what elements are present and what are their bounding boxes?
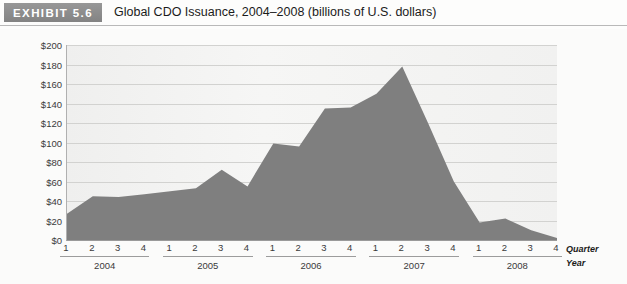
x-axis-year-label: 2007	[369, 260, 458, 271]
y-axis-tick: $180	[2, 59, 62, 70]
axis-legend-quarter: Quarter	[566, 242, 626, 256]
x-axis-quarter-tick: 1	[469, 242, 489, 253]
exhibit-header: EXHIBIT 5.6 Global CDO Issuance, 2004–20…	[0, 0, 627, 29]
chart-area: $0$20$40$60$80$100$120$140$160$180$200 Q…	[0, 29, 627, 284]
axis-legend-year: Year	[566, 256, 626, 270]
x-axis-quarter-tick: 1	[159, 242, 179, 253]
x-axis-quarter-tick: 1	[56, 242, 76, 253]
axis-legend: Quarter Year	[566, 242, 626, 270]
x-axis-year-label: 2004	[60, 260, 149, 271]
area-fill-path	[67, 66, 557, 240]
x-axis-quarter-tick: 3	[211, 242, 231, 253]
x-axis-year-group: 2007	[369, 256, 458, 280]
x-axis-year-label: 2008	[473, 260, 562, 271]
x-axis-quarter-tick: 1	[262, 242, 282, 253]
x-axis-quarter-tick: 2	[494, 242, 514, 253]
x-axis: Quarter Year 123412341234123412342004200…	[0, 242, 627, 284]
x-axis-year-group: 2004	[60, 256, 149, 280]
x-axis-year-group: 2008	[473, 256, 562, 280]
y-axis-tick: $160	[2, 79, 62, 90]
header-divider	[0, 25, 627, 26]
x-axis-quarter-tick: 3	[520, 242, 540, 253]
x-axis-quarter-tick: 4	[133, 242, 153, 253]
x-axis-quarter-tick: 3	[417, 242, 437, 253]
x-axis-quarter-tick: 2	[391, 242, 411, 253]
x-axis-quarter-tick: 2	[288, 242, 308, 253]
x-axis-quarter-tick: 4	[546, 242, 566, 253]
year-group-rule	[473, 256, 562, 257]
year-group-rule	[266, 256, 355, 257]
x-axis-year-group: 2005	[163, 256, 252, 280]
x-axis-quarter-tick: 4	[340, 242, 360, 253]
y-axis-tick: $120	[2, 118, 62, 129]
x-axis-year-label: 2006	[266, 260, 355, 271]
x-axis-year-label: 2005	[163, 260, 252, 271]
year-group-rule	[369, 256, 458, 257]
year-group-rule	[163, 256, 252, 257]
x-axis-year-group: 2006	[266, 256, 355, 280]
y-axis-tick: $20	[2, 215, 62, 226]
x-axis-quarter-tick: 4	[443, 242, 463, 253]
exhibit-title: Global CDO Issuance, 2004–2008 (billions…	[114, 3, 436, 22]
x-axis-quarter-tick: 2	[82, 242, 102, 253]
x-axis-quarter-tick: 4	[237, 242, 257, 253]
x-axis-quarter-tick: 2	[185, 242, 205, 253]
x-axis-quarter-tick: 1	[365, 242, 385, 253]
y-axis-tick: $100	[2, 137, 62, 148]
y-axis-tick: $140	[2, 98, 62, 109]
x-axis-quarter-tick: 3	[314, 242, 334, 253]
plot-area	[66, 45, 557, 241]
y-axis-tick: $80	[2, 157, 62, 168]
y-axis-tick: $60	[2, 176, 62, 187]
x-axis-quarter-tick: 3	[108, 242, 128, 253]
y-axis-tick: $40	[2, 196, 62, 207]
area-series-cdo-issuance	[67, 45, 557, 240]
year-group-rule	[60, 256, 149, 257]
exhibit-badge: EXHIBIT 5.6	[4, 3, 102, 22]
y-axis-tick: $200	[2, 40, 62, 51]
